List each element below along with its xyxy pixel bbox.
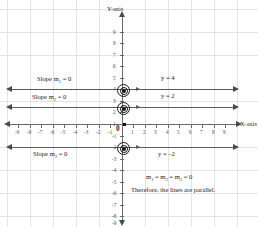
- equation-label-y-minus2: y = –2: [158, 150, 175, 157]
- x-tick: [110, 124, 111, 128]
- slope-label-m3-text: Slope m: [33, 150, 55, 157]
- x-tick: [202, 124, 203, 128]
- y-tick: [120, 216, 124, 217]
- conclusion-eq-a: = m: [153, 173, 165, 180]
- gridline-horizontal: [0, 55, 258, 56]
- origin-point-marker: [123, 123, 126, 126]
- line1-arrow-left-icon: [6, 86, 12, 92]
- x-tick-label: 5: [177, 130, 180, 135]
- line2-arrow-right-icon: [233, 104, 239, 110]
- line1-arrow-right-icon: [233, 86, 239, 92]
- x-axis-title: X-axis: [240, 120, 257, 127]
- y-tick-label: 3: [113, 99, 116, 104]
- x-tick-label: -5: [61, 130, 65, 135]
- gridline-horizontal: [0, 32, 258, 33]
- y-tick-label: 8: [113, 41, 116, 46]
- x-tick-label: 6: [189, 130, 192, 135]
- slope-label-m1: Slope m1 = 0: [37, 75, 71, 84]
- y-axis: [122, 17, 123, 220]
- x-tick: [191, 124, 192, 128]
- x-tick: [214, 124, 215, 128]
- intercept-marker-0-4: [117, 84, 130, 97]
- y-tick: [120, 182, 124, 183]
- x-tick-label: 1: [131, 130, 134, 135]
- equation-label-y4-value: = 4: [164, 74, 174, 81]
- slope-label-m3: Slope m3 = 0: [33, 150, 67, 159]
- x-tick-label: 9: [223, 130, 226, 135]
- slope-label-m1-text: Slope m: [37, 75, 59, 82]
- intercept-marker-0-minus2: [117, 142, 130, 155]
- y-tick-label: 5: [113, 76, 116, 81]
- x-tick: [87, 124, 88, 128]
- conclusion-equation: m1 = m2 = m3 = 0: [146, 173, 192, 182]
- x-tick-label: 4: [166, 130, 169, 135]
- x-tick-label: -4: [73, 130, 77, 135]
- equation-label-y2-value: = 2: [164, 92, 174, 99]
- x-tick-label: -1: [108, 130, 112, 135]
- line2-arrow-left-icon: [6, 104, 12, 110]
- x-tick: [179, 124, 180, 128]
- intercept-marker-0-2: [117, 102, 130, 115]
- y-tick: [120, 136, 124, 137]
- origin-label: 0: [116, 125, 120, 133]
- x-tick-label: -2: [96, 130, 100, 135]
- coordinate-plane-figure: Y-axis X-axis 9 8 7 6 5 4 3 2 1 -1 -2 -3…: [0, 0, 258, 227]
- y-tick: [120, 43, 124, 44]
- y-tick: [120, 205, 124, 206]
- gridline-horizontal: [0, 170, 258, 171]
- x-tick: [30, 124, 31, 128]
- slope-label-m2-text: Slope m: [32, 93, 54, 100]
- x-tick: [64, 124, 65, 128]
- gridline-horizontal: [0, 216, 258, 217]
- conclusion-sentence: Therefore, the lines are parallel.: [131, 186, 215, 193]
- equation-label-y4: y = 4: [161, 74, 175, 81]
- line3-arrow-left-icon: [6, 144, 12, 150]
- y-axis-arrow-down-icon: [119, 220, 125, 226]
- x-tick-label: 7: [200, 130, 203, 135]
- conclusion-eq-b: = m: [168, 173, 180, 180]
- x-tick-label: -7: [38, 130, 42, 135]
- y-tick-label: -7: [112, 203, 116, 208]
- x-tick-label: -6: [50, 130, 54, 135]
- slope-label-m3-value: = 0: [57, 150, 67, 157]
- y-tick-label: 7: [113, 53, 116, 58]
- x-tick: [99, 124, 100, 128]
- gridline-horizontal: [0, 9, 258, 10]
- x-tick-label: 2: [143, 130, 146, 135]
- y-tick-label: -4: [112, 168, 116, 173]
- y-tick-label: -9: [112, 221, 116, 226]
- slope-label-m2: Slope m2 = 0: [32, 93, 66, 102]
- x-tick: [156, 124, 157, 128]
- equation-label-ym2-value: = –2: [161, 150, 175, 157]
- y-tick: [120, 170, 124, 171]
- x-tick: [133, 124, 134, 128]
- x-tick-label: -9: [15, 130, 19, 135]
- line2-direction-arrow-icon: [136, 105, 140, 109]
- x-tick: [145, 124, 146, 128]
- equation-label-y2: y = 2: [161, 92, 175, 99]
- y-tick-label: -1: [112, 134, 116, 139]
- y-tick: [120, 66, 124, 67]
- line1-direction-arrow-icon: [136, 87, 140, 91]
- y-tick-label: -8: [112, 214, 116, 219]
- y-tick: [120, 78, 124, 79]
- line3-direction-arrow-icon: [136, 145, 140, 149]
- x-tick: [168, 124, 169, 128]
- y-tick: [120, 55, 124, 56]
- y-tick-label: -3: [112, 157, 116, 162]
- x-tick: [76, 124, 77, 128]
- x-axis-arrow-left-icon: [4, 121, 10, 127]
- y-tick-label: 9: [113, 30, 116, 35]
- x-tick: [41, 124, 42, 128]
- conclusion-eq-c: = 0: [182, 173, 192, 180]
- x-tick: [225, 124, 226, 128]
- x-tick-label: 8: [212, 130, 215, 135]
- y-axis-title: Y-axis: [107, 5, 123, 12]
- y-tick-label: 2: [113, 110, 116, 115]
- y-tick: [120, 193, 124, 194]
- x-tick-label: -8: [27, 130, 31, 135]
- y-tick-label: -6: [112, 191, 116, 196]
- line3-arrow-right-icon: [233, 144, 239, 150]
- y-tick-label: -5: [112, 180, 116, 185]
- gridline-horizontal: [0, 193, 258, 194]
